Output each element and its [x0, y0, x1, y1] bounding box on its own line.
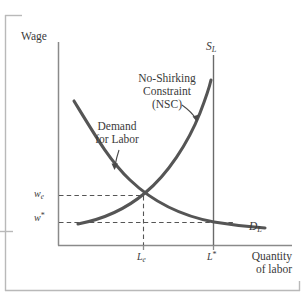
demand-annotation-line2: for Labor	[95, 133, 139, 145]
demand-annotation-line1: Demand	[98, 120, 137, 132]
nsc-annotation-line3: (NSC)	[152, 98, 182, 110]
competitive-wage-symbol: w	[34, 212, 41, 223]
full-employment-labor-label: L*	[207, 251, 217, 262]
x-axis-label-line1: Quantity	[252, 250, 292, 262]
labor-supply-curve-label: SL	[206, 40, 216, 54]
demand-curve-label: DL	[249, 220, 262, 234]
equilibrium-wage-subscript: e	[41, 193, 44, 201]
equilibrium-wage-label: we	[34, 188, 44, 201]
full-employment-labor-superscript: *	[213, 250, 217, 259]
figure-page: Wage Quantity of labor No-Shirking Const…	[0, 0, 307, 306]
x-axis-label: Quantity of labor	[236, 250, 292, 276]
competitive-wage-superscript: *	[41, 211, 45, 220]
nsc-annotation-line2: Constraint	[143, 85, 191, 97]
demand-annotation-label: Demand for Labor	[86, 120, 148, 146]
x-axis-label-line2: of labor	[256, 263, 292, 275]
equilibrium-labor-subscript: e	[143, 256, 146, 264]
equilibrium-labor-label: Le	[137, 251, 146, 264]
nsc-annotation-label: No-Shirking Constraint (NSC)	[126, 72, 208, 111]
competitive-wage-label: w*	[34, 212, 45, 223]
labor-supply-subscript: L	[212, 45, 217, 54]
y-axis-label: Wage	[21, 30, 47, 43]
nsc-annotation-line1: No-Shirking	[138, 72, 196, 84]
demand-subscript: L	[257, 225, 262, 234]
equilibrium-wage-symbol: w	[34, 188, 41, 199]
